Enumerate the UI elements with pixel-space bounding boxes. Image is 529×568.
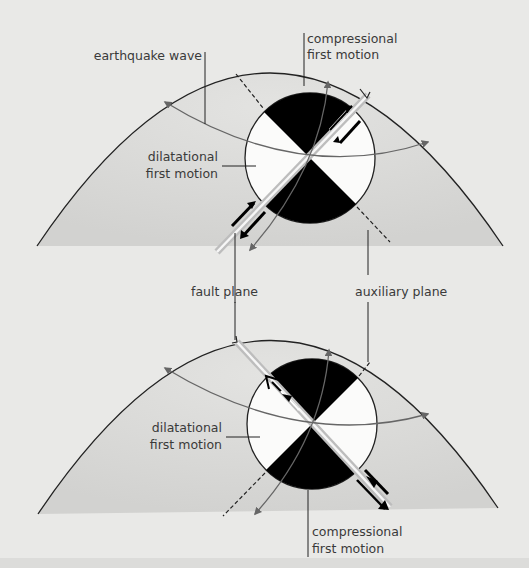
label-dilatational-top-line2: first motion xyxy=(118,165,218,182)
label-dilatational-top-line1: dilatational xyxy=(118,148,218,165)
focal-mechanism-diagram xyxy=(0,0,529,568)
label-compressional-top-line1: compressional xyxy=(307,30,397,47)
label-earthquake-wave: earthquake wave xyxy=(80,47,202,64)
label-compressional-bottom-line1: compressional xyxy=(312,523,402,540)
diagram-stage: earthquake wave compressional first moti… xyxy=(0,0,529,568)
label-compressional-top-line2: first motion xyxy=(307,46,379,63)
page-edge-strip xyxy=(0,558,529,568)
label-dilatational-bottom-line2: first motion xyxy=(120,436,222,453)
label-auxiliary-plane: auxiliary plane xyxy=(355,283,447,300)
label-compressional-bottom-line2: first motion xyxy=(312,540,384,557)
label-fault-plane: fault plane xyxy=(191,283,258,300)
label-dilatational-bottom-line1: dilatational xyxy=(120,419,222,436)
top-panel xyxy=(37,33,503,252)
bottom-panel xyxy=(38,336,498,557)
